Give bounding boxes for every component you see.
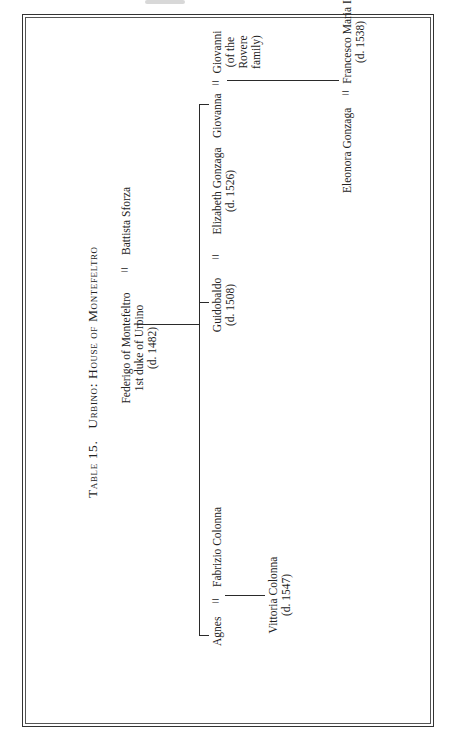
person-agnes: Agnes [211,617,224,646]
drop-giovanna [199,104,209,105]
genealogy-table: Table 15. Urbino: House of Montefeltro F… [0,0,454,743]
person-giovanna: Giovanna [211,93,224,138]
person-federigo: Federigo of Montefeltro 1st duke of Urbi… [120,288,159,408]
title-place: Urbino: [85,383,100,429]
person-name: Elizabeth Gonzaga [211,136,224,246]
person-vittoria-colonna: Vittoria Colonna (d. 1547) [267,545,293,645]
marriage-symbol: = [212,595,220,608]
person-francesco-maria-i: Francesco Maria I (d. 1538) [341,0,367,87]
marriage-symbol: = [212,251,220,264]
person-death: (d. 1526) [224,136,237,246]
title-house: House of Montefeltro [85,246,100,379]
person-giovanni-della-rovere: Giovanni (of the Rovere family) [211,27,263,77]
person-title: 1st duke of Urbino [133,288,146,408]
person-name: Francesco Maria I [341,0,354,87]
person-elizabeth-gonzaga: Elizabeth Gonzaga (d. 1526) [211,136,237,246]
table-number: Table 15. [85,441,100,498]
table-title: Table 15. Urbino: House of Montefeltro [86,246,99,498]
marriage-symbol: = [342,87,350,100]
person-fabrizio-colonna: Fabrizio Colonna [211,507,224,587]
person-guidobaldo: Guidobaldo (d. 1508) [211,265,237,345]
siblings-bar [199,105,200,636]
name-line: family) [250,27,263,77]
drop-guidobaldo [199,302,209,303]
person-death: (d. 1547) [280,545,293,645]
drop-agnes [199,635,209,636]
descent-line [227,80,339,81]
person-name: Guidobaldo [211,265,224,345]
person-eleonora-gonzaga: Eleonora Gonzaga [341,108,354,193]
person-death: (d. 1482) [146,288,159,408]
person-death: (d. 1508) [224,265,237,345]
person-death: (d. 1538) [354,0,367,87]
name-line: (of the [224,27,237,77]
descent-line [137,324,199,325]
person-name: Federigo of Montefeltro [120,288,133,408]
person-battista-sforza: Battista Sforza [120,187,133,255]
descent-line [225,595,265,596]
person-name: Vittoria Colonna [267,545,280,645]
name-line: Rovere [237,27,250,77]
marriage-symbol: = [121,264,129,277]
name-line: Giovanni [211,27,224,77]
marriage-symbol: = [212,77,220,90]
